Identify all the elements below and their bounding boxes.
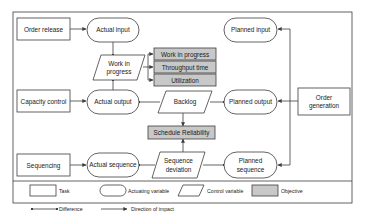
svg-text:Utilization: Utilization	[171, 77, 199, 84]
legend-actuating-variable: Actuating variable	[100, 185, 169, 196]
svg-text:Capacity control: Capacity control	[21, 98, 67, 106]
actuating-actual-sequence: Actual sequence	[87, 153, 139, 177]
control-work-in-progress: Work in progress	[93, 55, 145, 80]
svg-text:Planned input: Planned input	[231, 26, 270, 34]
task-order-generation: Order generation	[298, 88, 350, 115]
actuating-actual-input: Actual input	[87, 18, 139, 42]
task-sequencing: Sequencing	[17, 154, 70, 176]
svg-text:generation: generation	[309, 102, 340, 110]
svg-text:Planned: Planned	[239, 157, 263, 164]
production-control-diagram: Order release Capacity control Sequencin…	[0, 0, 365, 224]
svg-text:Schedule Reliability: Schedule Reliability	[154, 129, 211, 137]
svg-text:Order release: Order release	[24, 26, 64, 33]
task-capacity-control: Capacity control	[17, 90, 70, 112]
actuating-actual-output: Actual output	[87, 90, 139, 114]
svg-text:Actual input: Actual input	[96, 26, 130, 34]
svg-text:Direction of impact: Direction of impact	[131, 206, 175, 212]
objective-schedule-reliability: Schedule Reliability	[148, 126, 215, 139]
actuating-planned-input: Planned input	[224, 18, 277, 42]
svg-text:Actuating variable: Actuating variable	[128, 188, 169, 194]
legend-objective: Objective	[252, 185, 303, 196]
svg-text:Objective: Objective	[281, 188, 303, 194]
task-order-release: Order release	[17, 18, 70, 40]
legend-control-variable: Control variable	[178, 185, 243, 196]
objective-utilization: Utilization	[154, 74, 216, 86]
svg-text:Throughput time: Throughput time	[162, 64, 209, 72]
legend-direction-of-impact: Direction of impact	[101, 206, 175, 212]
svg-text:Actual sequence: Actual sequence	[89, 161, 137, 169]
actuating-planned-sequence: Planned sequence	[224, 152, 277, 178]
svg-text:Work in: Work in	[108, 60, 130, 67]
svg-text:Task: Task	[59, 188, 70, 194]
legend-difference: Difference	[32, 206, 83, 212]
svg-text:progress: progress	[107, 68, 132, 76]
svg-text:deviation: deviation	[166, 166, 192, 173]
svg-text:Control variable: Control variable	[207, 188, 243, 194]
legend: Task Actuating variable Control variable…	[30, 185, 303, 212]
svg-text:Sequence: Sequence	[164, 157, 193, 165]
svg-text:Order: Order	[316, 94, 333, 101]
svg-text:Difference: Difference	[59, 206, 83, 212]
control-backlog: Backlog	[158, 91, 212, 113]
svg-text:Work in progress: Work in progress	[161, 51, 209, 59]
objective-throughput-time: Throughput time	[154, 61, 216, 73]
svg-text:Actual output: Actual output	[94, 98, 132, 106]
legend-task: Task	[30, 185, 70, 196]
actuating-planned-output: Planned output	[224, 90, 277, 114]
objective-work-in-progress: Work in progress	[154, 48, 216, 60]
control-sequence-deviation: Sequence deviation	[152, 152, 205, 178]
svg-text:Planned output: Planned output	[229, 98, 272, 106]
svg-text:Backlog: Backlog	[174, 98, 197, 106]
svg-text:Sequencing: Sequencing	[27, 162, 61, 170]
svg-text:sequence: sequence	[237, 166, 265, 174]
